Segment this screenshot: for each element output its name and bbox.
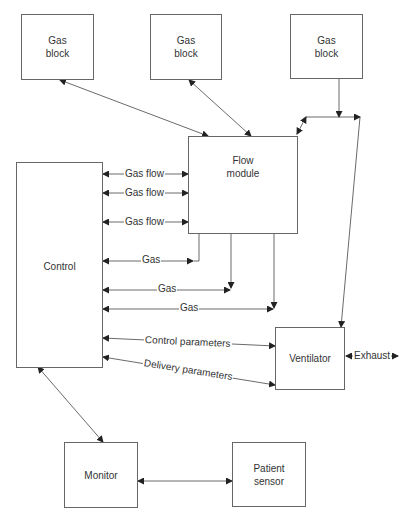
gas-block-1: Gas block [21, 14, 94, 80]
exhaust-label: Exhaust [353, 350, 391, 362]
gas-block-2: Gas block [150, 14, 222, 80]
ventilator-block: Ventilator [275, 327, 345, 390]
ventilator-label: Ventilator [289, 352, 331, 365]
patient-sensor-label: Patient sensor [253, 462, 284, 488]
control-label: Control [43, 260, 75, 273]
flow-module: Flow module [188, 136, 298, 234]
gas-flow-label-3: Gas flow [124, 216, 165, 228]
gas-label-1: Gas [141, 254, 161, 266]
flow-module-label: Flow module [227, 154, 260, 180]
gas-label-2: Gas [157, 283, 177, 295]
gas-block-3: Gas block [290, 14, 363, 79]
control-block: Control [16, 162, 103, 368]
patient-sensor-block: Patient sensor [232, 442, 306, 507]
gas-block-3-label: Gas block [315, 34, 338, 60]
gas-flow-label-2: Gas flow [124, 187, 165, 199]
gas-flow-label-1: Gas flow [124, 168, 165, 180]
monitor-block: Monitor [64, 442, 138, 508]
gas-label-3: Gas [179, 302, 199, 314]
monitor-label: Monitor [84, 469, 117, 482]
gas-block-2-label: Gas block [174, 34, 197, 60]
gas-block-1-label: Gas block [46, 34, 69, 60]
